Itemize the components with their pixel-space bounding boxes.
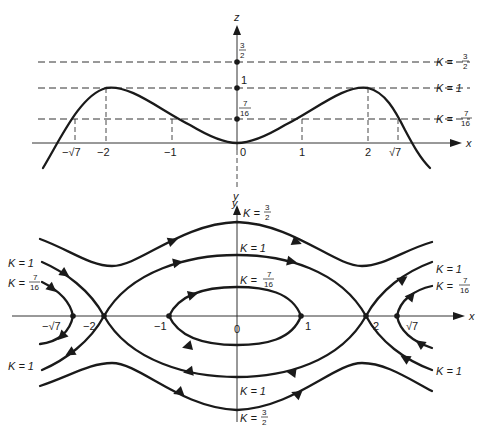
svg-text:2: 2 [240, 51, 245, 60]
b-tick-neg-sqrt7: −√7 [42, 320, 61, 332]
svg-text:K =: K = [240, 412, 257, 424]
svg-text:K =: K = [436, 280, 453, 292]
z-dot-1 [234, 85, 240, 91]
z-axis-arrow-icon [233, 25, 241, 35]
svg-text:7: 7 [464, 109, 469, 118]
svg-text:3: 3 [265, 203, 270, 212]
center-label-3-2-top: K = 3 2 [243, 203, 271, 222]
orbit-3-2-top [40, 222, 432, 266]
center-label-1-top: K = 1 [240, 242, 266, 254]
tick-neg-2: −2 [97, 146, 110, 158]
b-tick-1: 1 [305, 320, 311, 332]
level-label-7-16: K = 7 16 [436, 109, 472, 128]
point-neg-2 [101, 313, 107, 319]
svg-text:3: 3 [463, 52, 468, 61]
z-dot-7-16 [234, 116, 240, 122]
svg-text:7: 7 [243, 99, 248, 108]
point-neg-sqrt7 [70, 313, 76, 319]
svg-text:7: 7 [33, 273, 38, 282]
phase-portrait: y x 0 −√7 −2 −1 1 2 √7 K = 3 2 K = 1 K =… [8, 197, 475, 427]
svg-text:K =: K = [436, 56, 453, 68]
point-2 [363, 313, 369, 319]
left-label-1-upper: K = 1 [8, 257, 34, 269]
level-label-1: K = 1 [436, 82, 462, 94]
z-tick-7-16: 7 16 [239, 99, 251, 118]
svg-text:2: 2 [463, 62, 468, 71]
tick-sqrt7: √7 [389, 146, 401, 158]
point-sqrt7 [394, 313, 400, 319]
b-tick-2: 2 [373, 320, 379, 332]
svg-text:2: 2 [265, 213, 270, 222]
separatrix-upper [104, 255, 366, 316]
svg-text:K =: K = [436, 113, 453, 125]
right-label-1-upper: K = 1 [436, 263, 462, 275]
b-tick-neg-1: −1 [154, 320, 167, 332]
potential-plot: z x 0 y −√7 −2 −1 1 2 √7 3 2 1 7 16 K = … [32, 11, 472, 202]
left-label-7-16: K = 7 16 [8, 273, 40, 292]
bottom-origin-label: 0 [234, 323, 240, 335]
orbit-7-16-right [397, 286, 432, 348]
svg-text:3: 3 [262, 408, 267, 417]
svg-text:16: 16 [30, 283, 39, 292]
svg-text:16: 16 [240, 109, 249, 118]
level-label-3-2: K = 3 2 [436, 52, 469, 71]
orbit-3-2-bottom [40, 363, 432, 410]
right-label-1-lower: K = 1 [436, 365, 462, 377]
center-label-3-2-bottom: K = 3 2 [240, 408, 268, 427]
orbit-7-16-left [40, 282, 73, 344]
point-1 [298, 313, 304, 319]
b-tick-neg-2: −2 [83, 320, 96, 332]
svg-text:7: 7 [267, 270, 272, 279]
z-axis-label: z [233, 11, 240, 23]
top-x-axis-label: x [465, 137, 472, 149]
tick-neg-sqrt7: −√7 [62, 146, 81, 158]
bottom-x-axis-label: x [468, 310, 475, 322]
svg-text:2: 2 [262, 418, 267, 427]
left-label-1-lower: K = 1 [8, 360, 34, 372]
phase-diagram: z x 0 y −√7 −2 −1 1 2 √7 3 2 1 7 16 K = … [0, 0, 480, 435]
x-axis-arrow-icon [450, 139, 462, 147]
top-origin-label: 0 [240, 146, 246, 158]
svg-text:3: 3 [240, 41, 245, 50]
tick-2: 2 [365, 146, 371, 158]
bottom-x-arrow-icon [453, 312, 465, 320]
svg-text:K =: K = [8, 277, 25, 289]
tick-1: 1 [299, 146, 305, 158]
svg-text:7: 7 [463, 276, 468, 285]
svg-text:16: 16 [460, 286, 469, 295]
svg-text:16: 16 [461, 119, 470, 128]
svg-text:K =: K = [240, 274, 257, 286]
b-tick-sqrt7: √7 [406, 320, 418, 332]
svg-text:K =: K = [243, 207, 260, 219]
svg-text:16: 16 [264, 280, 273, 289]
right-label-7-16: K = 7 16 [436, 276, 470, 295]
z-dot-3-2 [234, 59, 240, 65]
z-tick-3-2: 3 2 [239, 41, 246, 60]
point-neg-1 [166, 313, 172, 319]
center-label-1-bottom: K = 1 [240, 385, 266, 397]
tick-neg-1: −1 [164, 146, 177, 158]
z-tick-1: 1 [241, 74, 247, 86]
